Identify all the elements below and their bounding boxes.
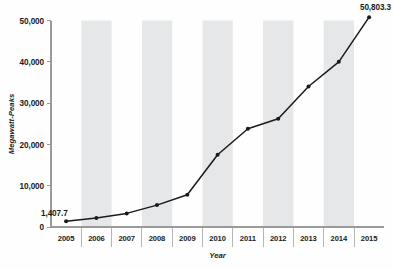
y-tick-label-30000: 30,000 xyxy=(20,99,45,108)
x-tick-label-2009: 2009 xyxy=(179,234,196,243)
band-2008 xyxy=(142,21,172,228)
data-point-2006 xyxy=(94,216,98,220)
band-2006 xyxy=(81,21,111,228)
y-tick-label-0: 0 xyxy=(40,223,45,232)
y-tick-label-50000: 50,000 xyxy=(20,17,45,26)
y-axis: 50,000 40,000 30,000 20,000 10,000 0 Meg… xyxy=(7,17,51,233)
x-tick-label-2005: 2005 xyxy=(58,234,75,243)
x-tick-label-2011: 2011 xyxy=(240,234,257,243)
last-point-label: 50,803.3 xyxy=(360,3,392,12)
data-point-2009 xyxy=(185,193,189,197)
x-tick-label-2006: 2006 xyxy=(88,234,105,243)
band-2014 xyxy=(324,21,354,228)
data-point-2015 xyxy=(367,15,371,19)
x-tick-label-2012: 2012 xyxy=(270,234,287,243)
x-tick-label-2013: 2013 xyxy=(300,234,317,243)
band-2010 xyxy=(203,21,233,228)
y-tick-label-20000: 20,000 xyxy=(20,141,45,150)
data-point-2008 xyxy=(155,203,159,207)
x-tick-label-2007: 2007 xyxy=(118,234,135,243)
data-point-2007 xyxy=(125,211,129,215)
chart-container: 50,000 40,000 30,000 20,000 10,000 0 Meg… xyxy=(0,0,394,269)
y-axis-title: Megawatt-Peaks xyxy=(7,93,16,154)
alternating-bands xyxy=(81,21,354,228)
data-point-2011 xyxy=(246,127,250,131)
y-tick-label-40000: 40,000 xyxy=(20,58,45,67)
data-point-2012 xyxy=(276,117,280,121)
x-tick-label-2015: 2015 xyxy=(361,234,378,243)
first-point-label: 1,407.7 xyxy=(41,209,68,218)
x-tick-label-2014: 2014 xyxy=(331,234,348,243)
data-point-2013 xyxy=(307,85,311,89)
x-tick-label-2010: 2010 xyxy=(209,234,226,243)
data-point-2014 xyxy=(337,60,341,64)
x-tick-label-2008: 2008 xyxy=(149,234,166,243)
line-chart: 50,000 40,000 30,000 20,000 10,000 0 Meg… xyxy=(0,0,394,269)
data-point-2010 xyxy=(216,153,220,157)
x-axis-title: Year xyxy=(209,251,227,260)
data-point-2005 xyxy=(64,219,68,223)
y-tick-label-10000: 10,000 xyxy=(20,182,45,191)
band-2012 xyxy=(263,21,293,228)
x-axis: 2005 2006 2007 2008 2009 2010 2011 2012 … xyxy=(51,227,384,260)
